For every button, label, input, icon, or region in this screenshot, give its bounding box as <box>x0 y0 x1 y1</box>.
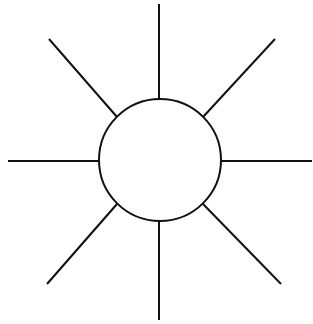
center-circle <box>99 99 221 221</box>
ray-northwest <box>49 39 117 117</box>
ray-southeast <box>203 204 281 284</box>
ray-northeast <box>203 39 275 117</box>
ray-southwest <box>47 204 117 284</box>
sunburst-diagram <box>0 0 313 324</box>
